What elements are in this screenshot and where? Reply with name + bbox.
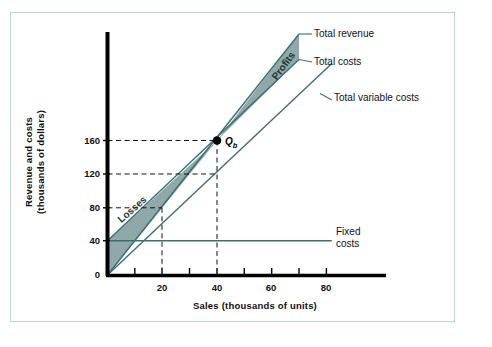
qb-base: Q bbox=[225, 136, 233, 147]
x-tick-label-80: 80 bbox=[311, 282, 341, 293]
x-tick-label-60: 60 bbox=[256, 282, 286, 293]
x-tick-label-40: 40 bbox=[202, 282, 232, 293]
qb-subscript: b bbox=[233, 141, 238, 150]
total-revenue-line bbox=[108, 34, 300, 275]
y-tick-label-80: 80 bbox=[62, 202, 100, 213]
total-costs-label: Total costs bbox=[314, 56, 361, 68]
x-tick-label-20: 20 bbox=[147, 282, 177, 293]
total-variable-costs-leader bbox=[320, 94, 332, 101]
total-variable-costs-line bbox=[108, 63, 332, 275]
y-tick-label-0: 0 bbox=[62, 269, 100, 280]
total-costs-line bbox=[108, 60, 300, 241]
fixed-costs-label-line1: Fixed bbox=[336, 226, 360, 237]
y-axis-title: Revenue and costs (thousands of dollars) bbox=[23, 97, 47, 227]
y-tick-label-40: 40 bbox=[62, 235, 100, 246]
x-axis-title: Sales (thousands of units) bbox=[120, 300, 390, 311]
y-axis-title-line1: Revenue and costs bbox=[23, 117, 34, 207]
y-tick-label-160: 160 bbox=[62, 135, 100, 146]
fixed-costs-label-line2: costs bbox=[336, 238, 359, 249]
break-even-point-marker bbox=[213, 136, 222, 145]
break-even-point-label: Qb bbox=[225, 136, 237, 150]
total-costs-leader bbox=[299, 60, 312, 63]
y-tick-label-120: 120 bbox=[62, 168, 100, 179]
total-revenue-label: Total revenue bbox=[314, 28, 374, 40]
y-axis-title-line2: (thousands of dollars) bbox=[35, 110, 46, 214]
total-variable-costs-label: Total variable costs bbox=[334, 92, 419, 104]
fixed-costs-label: Fixed costs bbox=[336, 226, 360, 250]
